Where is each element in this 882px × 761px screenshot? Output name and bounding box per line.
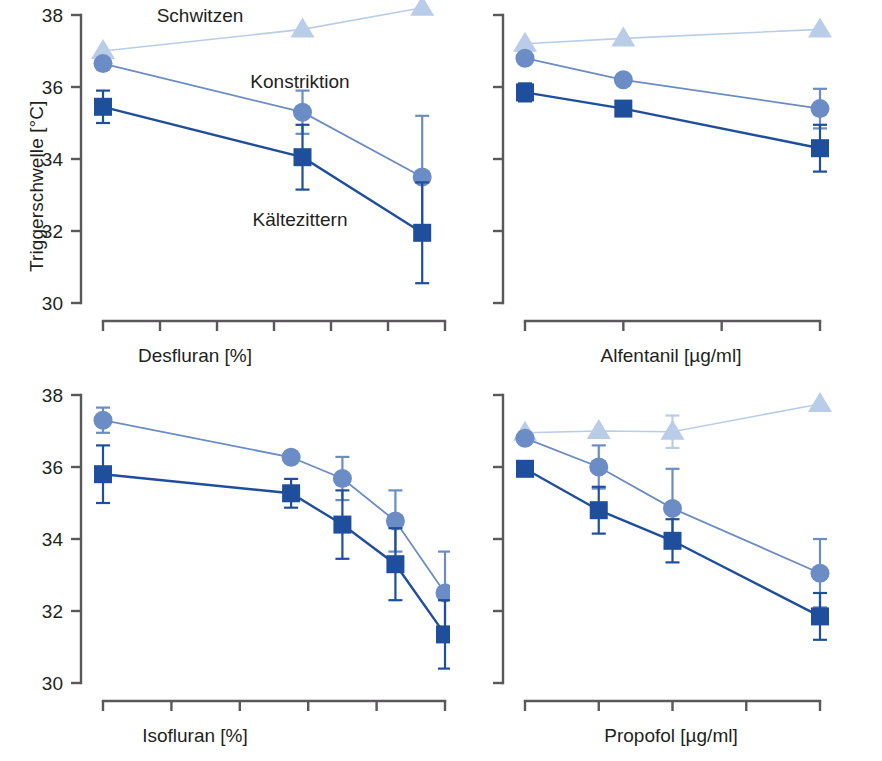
marker-triangle bbox=[808, 17, 832, 37]
x-tick-label-4: 0.8 bbox=[363, 718, 389, 720]
marker-circle bbox=[811, 564, 830, 583]
marker-circle bbox=[614, 70, 633, 89]
x-tick-label-4: 0.8 bbox=[807, 718, 833, 720]
x-tick-label-2: 0.4 bbox=[227, 718, 254, 720]
marker-square bbox=[516, 83, 534, 101]
marker-triangle bbox=[587, 419, 611, 439]
x-axis-label-desfluran: Desfluran [%] bbox=[0, 345, 420, 367]
x-tick-label-0: 0.0 bbox=[512, 718, 538, 720]
marker-square bbox=[516, 460, 534, 478]
series-line bbox=[103, 474, 445, 634]
panel-isofluran: 30323436380.00.20.40.60.81.0 Triggerschw… bbox=[0, 380, 450, 761]
marker-circle bbox=[333, 469, 352, 488]
series-line bbox=[525, 29, 820, 43]
y-tick-label-38: 38 bbox=[42, 5, 63, 26]
x-tick-label-2: 2.0 bbox=[204, 338, 230, 340]
series-schwitzen bbox=[513, 392, 832, 448]
panel-desfluran: 30323436380.02.04.06.0SchwitzenKonstrikt… bbox=[0, 0, 450, 381]
marker-circle bbox=[94, 411, 113, 430]
marker-square bbox=[294, 148, 312, 166]
x-tick-label-2: 0.4 bbox=[659, 718, 686, 720]
marker-square bbox=[386, 555, 404, 573]
plot-desfluran: 30323436380.02.04.06.0SchwitzenKonstrikt… bbox=[0, 0, 450, 340]
x-tick-label-1: 0.2 bbox=[158, 718, 184, 720]
thermoregulation-threshold-figure: 30323436380.02.04.06.0SchwitzenKonstrikt… bbox=[0, 0, 882, 761]
marker-circle bbox=[589, 458, 608, 477]
marker-square bbox=[664, 532, 682, 550]
marker-triangle bbox=[808, 392, 832, 412]
x-axis-label-alfentanil: Alfentanil [µg/ml] bbox=[450, 345, 882, 367]
marker-circle bbox=[811, 99, 830, 118]
marker-square bbox=[94, 465, 112, 483]
series-annotation-vasoconstriction: Konstriktion bbox=[250, 71, 349, 92]
series-line bbox=[525, 92, 820, 148]
x-axis-label-propofol: Propofol [µg/ml] bbox=[450, 725, 882, 747]
panel-alfentanil: 0.00.10.20.3 Alfentanil [µg/ml] bbox=[440, 0, 882, 381]
panel-propofol: 0.00.20.40.60.8 Propofol [µg/ml] bbox=[440, 380, 882, 761]
marker-square bbox=[811, 607, 829, 625]
y-tick-label-32: 32 bbox=[42, 601, 63, 622]
plot-isofluran: 30323436380.00.20.40.60.81.0 bbox=[0, 380, 450, 720]
y-tick-label-36: 36 bbox=[42, 77, 63, 98]
plot-alfentanil: 0.00.10.20.3 bbox=[440, 0, 882, 340]
x-tick-label-1: 0.1 bbox=[610, 338, 636, 340]
y-axis-label-desfluran: Triggerschwelle [°C] bbox=[26, 101, 48, 273]
series-schwitzen bbox=[91, 0, 434, 59]
series-annotation-sweating: Schwitzen bbox=[157, 5, 244, 26]
series-konstriktion bbox=[516, 49, 830, 129]
x-tick-label-1: 0.2 bbox=[586, 718, 612, 720]
x-tick-label-0: 0.0 bbox=[90, 338, 116, 340]
x-tick-label-0: 0.0 bbox=[90, 718, 116, 720]
marker-circle bbox=[293, 103, 312, 122]
plot-propofol: 0.00.20.40.60.8 bbox=[440, 380, 882, 720]
series-kältezittern bbox=[516, 83, 829, 171]
x-tick-label-0: 0.0 bbox=[512, 338, 538, 340]
marker-square bbox=[614, 100, 632, 118]
y-tick-label-34: 34 bbox=[42, 529, 64, 550]
y-tick-label-30: 30 bbox=[42, 673, 63, 694]
marker-square bbox=[590, 501, 608, 519]
series-schwitzen bbox=[513, 17, 832, 51]
series-konstriktion bbox=[516, 429, 830, 608]
marker-square bbox=[94, 98, 112, 116]
y-tick-label-38: 38 bbox=[42, 385, 63, 406]
x-tick-label-3: 0.3 bbox=[807, 338, 833, 340]
y-tick-label-36: 36 bbox=[42, 457, 63, 478]
series-kältezittern bbox=[94, 445, 450, 668]
marker-circle bbox=[516, 429, 535, 448]
series-line bbox=[525, 58, 820, 108]
marker-square bbox=[413, 224, 431, 242]
marker-circle bbox=[663, 499, 682, 518]
series-annotation-shivering: Kältezittern bbox=[252, 209, 347, 230]
x-tick-label-3: 0.6 bbox=[733, 718, 759, 720]
series-kältezittern bbox=[94, 91, 431, 284]
x-tick-label-2: 0.2 bbox=[708, 338, 734, 340]
x-tick-label-3: 0.6 bbox=[295, 718, 321, 720]
marker-triangle bbox=[410, 0, 434, 16]
marker-square bbox=[811, 139, 829, 157]
x-tick-label-4: 4.0 bbox=[318, 338, 344, 340]
x-axis-label-isofluran: Isofluran [%] bbox=[0, 725, 420, 747]
marker-triangle bbox=[611, 26, 635, 46]
marker-square bbox=[282, 484, 300, 502]
y-tick-label-30: 30 bbox=[42, 293, 63, 314]
series-line bbox=[103, 8, 422, 51]
marker-circle bbox=[282, 448, 301, 467]
marker-circle bbox=[94, 54, 113, 73]
marker-square bbox=[333, 516, 351, 534]
marker-circle bbox=[516, 49, 535, 68]
